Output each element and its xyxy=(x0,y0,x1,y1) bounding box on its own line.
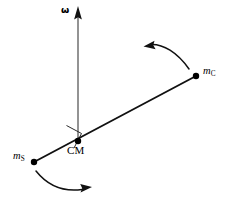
mass-small-point xyxy=(31,159,37,165)
diagram-background xyxy=(0,0,227,201)
omega-label: ω xyxy=(61,5,69,15)
mass-large-subscript: C xyxy=(211,70,216,78)
mass-large-point xyxy=(193,73,199,79)
mass-large-symbol: m xyxy=(203,65,211,76)
mass-small-label: mS xyxy=(13,151,25,162)
mass-small-symbol: m xyxy=(13,150,21,161)
mass-small-subscript: S xyxy=(21,155,25,163)
center-of-mass-label: CM xyxy=(67,145,85,156)
mass-large-label: mC xyxy=(203,66,215,77)
physics-diagram: ω CM mS mC xyxy=(0,0,227,201)
diagram-canvas xyxy=(0,0,227,201)
